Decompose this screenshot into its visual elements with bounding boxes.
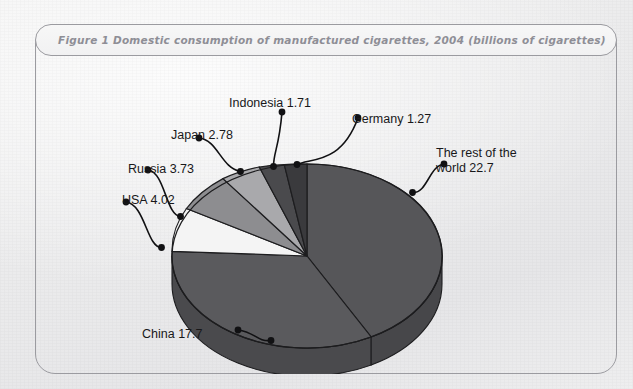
pie-chart xyxy=(35,56,617,374)
leader-dot-germany-slice xyxy=(294,161,301,168)
slice-label-usa: USA 4.02 xyxy=(122,193,175,207)
slice-label-japan: Japan 2.78 xyxy=(171,128,233,142)
pie-slices xyxy=(172,164,442,348)
leader-dot-china-slice xyxy=(268,337,275,344)
slice-label-rest-of-world-line1: The rest of the xyxy=(436,146,517,160)
slice-label-rest-of-world: The rest of the world 22.7 xyxy=(436,146,541,176)
pie-chart-svg xyxy=(35,56,617,374)
leader-dot-indonesia-slice xyxy=(270,163,277,170)
leader-dot-usa-slice xyxy=(158,244,165,251)
leader-dot-rest-of-world-slice xyxy=(409,189,416,196)
slice-label-indonesia: Indonesia 1.71 xyxy=(229,96,311,110)
leader-dot-russia-slice xyxy=(177,213,184,220)
leader-dot-japan-slice xyxy=(237,168,244,175)
figure-title-bar: Figure 1 Domestic consumption of manufac… xyxy=(35,24,617,56)
slice-label-germany: Germany 1.27 xyxy=(352,112,431,126)
leader-dot-china-label xyxy=(235,327,242,334)
slice-label-russia: Russia 3.73 xyxy=(128,162,194,176)
slice-label-rest-of-world-line2: world 22.7 xyxy=(436,161,494,175)
page-title: Figure 1 Domestic consumption of manufac… xyxy=(58,34,606,46)
slice-label-china: China 17.7 xyxy=(142,327,202,341)
